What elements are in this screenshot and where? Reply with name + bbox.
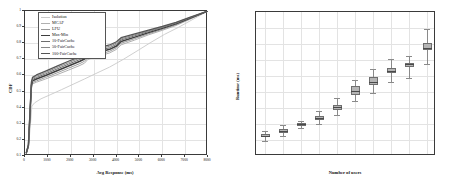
legend-line-swatch [41, 53, 50, 54]
legend-item-label: 100-FairCache [52, 51, 77, 57]
legend-line-swatch [41, 29, 50, 30]
panel-boxplot-chart: 1020304050607080901000501001502002503003… [225, 0, 450, 183]
yaxis-tick [22, 10, 24, 11]
box-median-line [423, 48, 432, 49]
xaxis-tick [93, 155, 94, 157]
xaxis-tick [207, 155, 208, 157]
xaxis-tick [138, 155, 139, 157]
cdf-xaxis-title: Avg Response (ms) [97, 170, 134, 175]
box-whisker-cap [262, 131, 268, 132]
xaxis-tick [24, 155, 25, 157]
yaxis-tick [22, 91, 24, 92]
xaxis-tick [184, 155, 185, 157]
box-whisker-cap [334, 98, 340, 99]
yaxis-tick [22, 139, 24, 140]
box-whisker-cap [262, 141, 268, 142]
box-whisker-cap [352, 80, 358, 81]
box-whisker-cap [280, 125, 286, 126]
xaxis-tick-label: 7000 [181, 158, 188, 162]
boxplot-plot-area [255, 11, 435, 155]
boxplot-box-layer [256, 12, 434, 154]
xaxis-tick-label: 5000 [135, 158, 142, 162]
yaxis-tick-label: 0.9 [8, 24, 21, 28]
xaxis-tick-label: 1000 [43, 158, 50, 162]
legend-item[interactable]: 100-FairCache [41, 51, 103, 57]
yaxis-tick [22, 107, 24, 108]
box-whisker-cap [424, 29, 430, 30]
legend-line-swatch [41, 41, 50, 42]
box-median-line [387, 71, 396, 72]
cdf-legend: IsolationMCAFLFUMax-Min10-FairCache50-Fa… [38, 12, 106, 59]
figure-canvas: 0100020003000400050006000700080000.10.20… [0, 0, 450, 183]
xaxis-tick-label: 6000 [158, 158, 165, 162]
yaxis-tick-label: 0.7 [8, 56, 21, 60]
xaxis-tick-label: 3000 [89, 158, 96, 162]
box-median-line [369, 82, 378, 83]
box-whisker-cap [316, 124, 322, 125]
yaxis-tick [22, 42, 24, 43]
legend-line-swatch [41, 35, 50, 36]
yaxis-tick-label: 0.8 [8, 40, 21, 44]
yaxis-tick-label: 0.4 [8, 105, 21, 109]
yaxis-tick-label: 0.2 [8, 137, 21, 141]
box-whisker-cap [334, 115, 340, 116]
box-whisker-cap [424, 64, 430, 65]
legend-line-swatch [41, 17, 50, 18]
legend-line-swatch [41, 23, 50, 24]
box-whisker-cap [280, 136, 286, 137]
xaxis-tick [47, 155, 48, 157]
xaxis-tick [161, 155, 162, 157]
legend-line-swatch [41, 47, 50, 48]
box-whisker-cap [370, 69, 376, 70]
box-whisker-cap [298, 128, 304, 129]
box-median-line [405, 64, 414, 65]
box-whisker-cap [406, 78, 412, 79]
xaxis-tick-label: 4000 [112, 158, 119, 162]
boxplot-xaxis-title: Number of users [329, 170, 362, 175]
xaxis-tick [116, 155, 117, 157]
box-whisker-cap [298, 121, 304, 122]
box-whisker-cap [388, 59, 394, 60]
box-median-line [279, 131, 288, 132]
box-median-line [333, 107, 342, 108]
boxplot-yaxis-title: Runtime (ms) [235, 73, 240, 100]
box-median-line [261, 136, 270, 137]
panel-cdf-chart: 0100020003000400050006000700080000.10.20… [0, 0, 225, 183]
cdf-yaxis-title: CDF [8, 84, 13, 93]
box-median-line [315, 118, 324, 119]
yaxis-tick [22, 26, 24, 27]
yaxis-tick [22, 123, 24, 124]
xaxis-tick-label: 8000 [203, 158, 210, 162]
yaxis-tick [22, 74, 24, 75]
yaxis-tick [22, 58, 24, 59]
box-whisker-cap [352, 101, 358, 102]
yaxis-tick-label: 1 [8, 8, 21, 12]
yaxis-tick-label: 0.6 [8, 72, 21, 76]
xaxis-tick [70, 155, 71, 157]
box-whisker-cap [316, 111, 322, 112]
yaxis-tick-label: 0.1 [8, 153, 21, 157]
box-whisker-cap [388, 82, 394, 83]
box-whisker-cap [370, 93, 376, 94]
box-whisker-cap [406, 56, 412, 57]
box-median-line [351, 91, 360, 92]
xaxis-tick-label: 0 [23, 158, 25, 162]
yaxis-tick-label: 0.3 [8, 121, 21, 125]
box-median-line [297, 124, 306, 125]
yaxis-tick [22, 155, 24, 156]
xaxis-tick-label: 2000 [66, 158, 73, 162]
